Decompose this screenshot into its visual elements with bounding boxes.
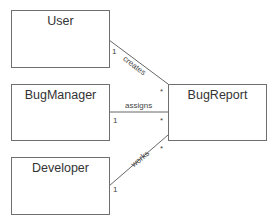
class-bugreport[interactable]: BugReport <box>168 84 267 141</box>
works-from-multiplicity: 1 <box>113 186 117 194</box>
creates-to-multiplicity: * <box>160 88 163 96</box>
class-bugmanager[interactable]: BugManager <box>11 84 110 141</box>
class-developer[interactable]: Developer <box>11 157 110 215</box>
assigns-to-multiplicity: * <box>160 117 163 125</box>
assigns-from-multiplicity: 1 <box>113 117 117 125</box>
creates-association-line <box>109 40 168 84</box>
class-name: BugManager <box>12 88 109 102</box>
class-name: Developer <box>12 161 109 175</box>
class-name: User <box>12 14 109 28</box>
class-name: BugReport <box>169 88 266 102</box>
assigns-label: assigns <box>125 102 152 110</box>
creates-from-multiplicity: 1 <box>112 48 116 56</box>
class-user[interactable]: User <box>11 10 110 68</box>
works-to-multiplicity: * <box>160 145 163 153</box>
